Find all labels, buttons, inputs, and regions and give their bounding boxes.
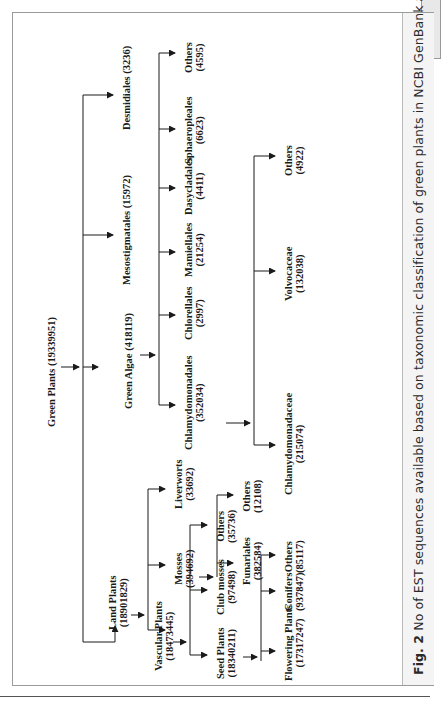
node-green-plants: Green Plants (19339951) [46, 317, 57, 427]
node-algae-others: Others (4595) [183, 42, 205, 73]
node-chlorellales: Chlorellales (2997) [183, 287, 205, 340]
node-sphaeropleales: Sphaeropleales (6623) [183, 97, 205, 164]
node-mesostigmatales: Mesostigmatales (15972) [121, 175, 132, 285]
figure-caption: Fig. 2 No of EST sequences available bas… [411, 0, 426, 675]
node-chlamydomonadaceae: Chlamydomonadaceae (215074) [283, 393, 305, 495]
node-land-plants: Land Plants (18901829) [107, 575, 129, 630]
figure-frame: Green Plants (19339951) Green Algae (418… [12, 12, 434, 686]
figure-label: Fig. 2 [411, 635, 426, 675]
node-chlamydomonadales: Chlamydomonadales (352034) [183, 355, 205, 450]
node-mosses: Mosses (394692) [173, 550, 195, 589]
node-seed-others: Others (85117) [283, 540, 305, 573]
tree-connectors [13, 13, 402, 685]
node-conifers: Conifers (937847) [283, 573, 305, 612]
node-moss-others: Others (12108) [241, 480, 263, 513]
node-club-mosses: Club mosses (97498) [215, 559, 237, 615]
node-seed-plants: Seed Plants (18340211) [215, 627, 237, 679]
node-funariales: Funariales (382584) [241, 537, 263, 585]
node-vascular-others: Others (35736) [215, 510, 237, 543]
node-vascular-plants: Vascular Plants (18473445) [153, 601, 175, 671]
page-header-rule [0, 696, 430, 697]
node-chlamy-others: Others (4922) [283, 145, 305, 176]
node-green-algae: Green Algae (418119) [123, 313, 134, 409]
node-liverworts: Liverworts (33692) [173, 459, 195, 509]
node-desmidiales: Desmidiales (3236) [121, 46, 132, 130]
node-mamiellales: Mamiellales (21254) [183, 223, 205, 277]
node-volvocaceae: Volvocaceae (132038) [283, 247, 305, 301]
node-flowering-plants: Flowering Plants (17317247) [283, 605, 305, 681]
node-dasycladales: Dasycladales (4411) [183, 157, 205, 215]
figure-caption-text: No of EST sequences available based on t… [411, 0, 426, 631]
caption-strip: Fig. 2 No of EST sequences available bas… [402, 13, 434, 685]
